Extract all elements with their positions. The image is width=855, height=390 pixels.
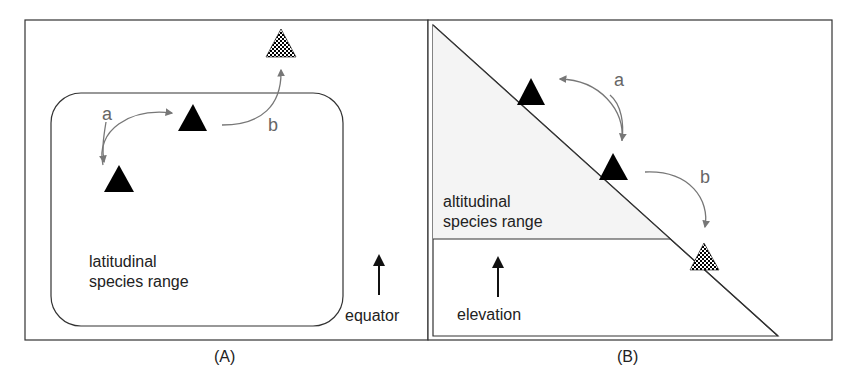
panel-b [428,20,832,340]
diagram-canvas [0,0,855,390]
range-label-line1: latitudinal [89,252,157,272]
arrow-b-label: b [700,167,710,187]
elevation-label: elevation [457,305,521,325]
equator-label: equator [345,306,399,326]
panel-a [25,20,428,340]
range-label-line2: species range [89,272,189,292]
caption-a: (A) [214,348,235,366]
caption-b: (B) [617,348,638,366]
arrow-b-label: b [268,115,278,135]
arrow-a-label: a [102,104,112,124]
arrow-a-label: a [614,70,624,90]
range-label-line2: species range [443,212,543,232]
range-label-line1: altitudinal [443,192,511,212]
